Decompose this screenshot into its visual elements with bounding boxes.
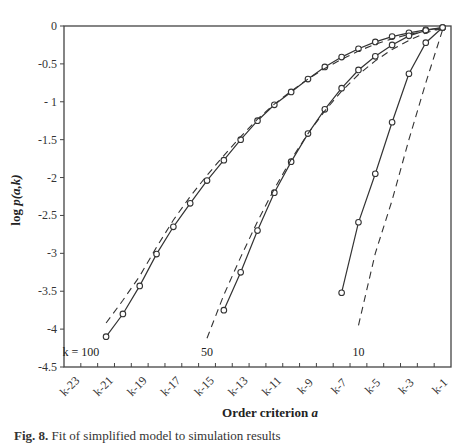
- data-point: [356, 219, 362, 225]
- data-point: [406, 71, 412, 77]
- x-tick-label: k-15: [191, 373, 216, 398]
- series-5: [359, 30, 443, 326]
- x-tick-label: k-11: [259, 374, 284, 399]
- data-point: [187, 201, 193, 207]
- y-tick-label: -0.5: [38, 57, 57, 71]
- x-axis-title: Order criterion a: [222, 405, 318, 420]
- x-tick-label: k-23: [57, 373, 82, 398]
- x-tick-label: k-9: [295, 376, 316, 397]
- data-point: [372, 54, 378, 60]
- data-point: [423, 40, 429, 46]
- series-annotation: 50: [201, 345, 213, 359]
- model-curve: [106, 28, 443, 323]
- data-point: [372, 171, 378, 177]
- data-point: [389, 42, 395, 48]
- annotation-layer: k = 1005010: [62, 345, 364, 359]
- x-tick-label: k-17: [158, 373, 183, 398]
- data-point: [339, 85, 345, 91]
- data-point: [339, 290, 345, 296]
- simulation-line: [106, 28, 443, 337]
- series-1: [106, 28, 443, 323]
- data-point: [255, 228, 261, 234]
- data-point: [389, 119, 395, 125]
- x-tick-label: k-21: [91, 373, 116, 398]
- y-tick-label: -2: [47, 171, 57, 185]
- series-0: [103, 25, 445, 340]
- y-tick-label: -4: [47, 322, 57, 336]
- data-point: [238, 137, 244, 143]
- series-4: [339, 25, 446, 296]
- data-point: [120, 311, 126, 317]
- series-layer: [103, 25, 445, 340]
- data-point: [238, 269, 244, 275]
- y-tick-label: - 1: [44, 95, 57, 109]
- y-axis-title: log p(a,k): [8, 174, 23, 225]
- caption-text: Fit of simplified model to simulation re…: [52, 428, 281, 443]
- simulation-line: [224, 28, 443, 311]
- data-point: [137, 283, 143, 289]
- data-point: [440, 25, 446, 31]
- y-tick-label: -3: [47, 246, 57, 260]
- data-point: [103, 334, 109, 340]
- data-point: [406, 33, 412, 39]
- data-point: [154, 251, 160, 257]
- x-tick-label: k-7: [328, 376, 349, 397]
- y-tick-label: 0: [51, 19, 57, 33]
- y-tick-label: -2.5: [38, 208, 57, 222]
- series-annotation: k = 100: [62, 345, 99, 359]
- data-point: [221, 157, 227, 163]
- x-tick-label: k-3: [395, 376, 416, 397]
- x-tick-label: k-5: [362, 376, 383, 397]
- y-tick-label: -4.5: [38, 360, 57, 374]
- x-tick-label: k-1: [429, 376, 450, 397]
- data-point: [356, 67, 362, 73]
- model-curve: [359, 30, 443, 326]
- caption-label: Fig. 8.: [14, 428, 48, 443]
- data-point: [221, 307, 227, 313]
- data-point: [339, 54, 345, 60]
- data-point: [171, 224, 177, 230]
- data-point: [204, 178, 210, 184]
- figure-caption: Fig. 8. Fit of simplified model to simul…: [14, 428, 281, 444]
- y-tick-label: -1.5: [38, 133, 57, 147]
- x-tick-label: k-13: [225, 373, 250, 398]
- y-tick-label: -3.5: [38, 284, 57, 298]
- x-tick-label: k-19: [124, 373, 149, 398]
- series-annotation: 10: [352, 345, 364, 359]
